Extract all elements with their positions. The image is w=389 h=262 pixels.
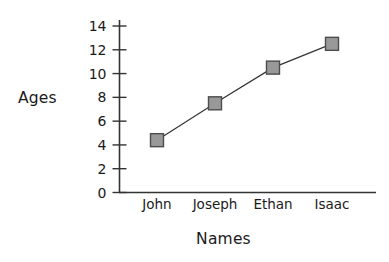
x-axis-category-labels: JohnJosephEthanIsaac [141, 196, 349, 212]
y-axis-tick-label: 8 [98, 89, 107, 105]
x-axis-category-label: Isaac [315, 196, 350, 212]
data-point-marker [267, 61, 280, 74]
x-axis-category-label: Joseph [192, 196, 238, 212]
x-axis-label: Names [196, 230, 251, 248]
line-chart-plot: 02468101214 JohnJosephEthanIsaac [0, 0, 389, 262]
y-axis-tick-label: 12 [89, 42, 107, 58]
y-axis-tick-label: 6 [98, 113, 107, 129]
data-point-marker [209, 97, 222, 110]
y-axis-tick-label: 14 [89, 18, 107, 34]
x-axis-category-label: John [141, 196, 171, 212]
y-axis-tick-labels: 02468101214 [89, 18, 107, 201]
data-point-marker [151, 134, 164, 147]
data-line [157, 44, 332, 140]
x-axis-category-label: Ethan [253, 196, 292, 212]
y-axis-tick-label: 10 [89, 66, 107, 82]
y-axis-tick-label: 2 [98, 161, 107, 177]
y-axis-tick-label: 4 [98, 137, 107, 153]
chart-container: Ages 02468101214 JohnJosephEthanIsaac Na… [0, 0, 389, 262]
y-axis-tick-label: 0 [98, 185, 107, 201]
data-markers [151, 37, 339, 146]
x-axis-label-wrap: Names [0, 230, 389, 248]
data-point-marker [326, 37, 339, 50]
